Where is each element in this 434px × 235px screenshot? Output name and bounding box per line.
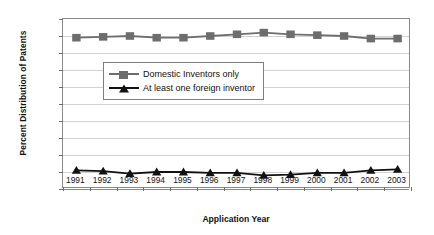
legend-item-domestic: Domestic Inventors only (109, 67, 255, 81)
legend-label-domestic: Domestic Inventors only (139, 69, 239, 79)
square-marker (286, 31, 294, 39)
square-marker (72, 34, 80, 42)
square-marker (233, 31, 241, 39)
square-marker (126, 32, 134, 40)
plot-area (62, 18, 410, 188)
square-marker (260, 29, 268, 37)
triangle-marker-icon (109, 82, 139, 94)
square-marker (393, 35, 401, 43)
square-marker-icon (109, 68, 139, 80)
square-marker (367, 35, 375, 43)
legend-label-foreign: At least one foreign inventor (139, 83, 255, 93)
square-marker (313, 31, 321, 39)
series-lines-group (63, 19, 411, 189)
square-marker (206, 32, 214, 40)
x-tick-label: 2003 (377, 176, 417, 184)
y-axis-label: Percent Distribution of Patents (18, 8, 28, 178)
square-marker (99, 33, 107, 41)
legend-item-foreign: At least one foreign inventor (109, 81, 255, 95)
square-marker (340, 32, 348, 40)
x-tick-mark (411, 187, 412, 191)
x-axis-label: Application Year (62, 214, 410, 224)
chart-legend: Domestic Inventors only At least one for… (103, 62, 264, 100)
square-marker (152, 34, 160, 42)
chart-figure: Percent Distribution of Patents 01020304… (0, 0, 434, 235)
square-marker (179, 34, 187, 42)
